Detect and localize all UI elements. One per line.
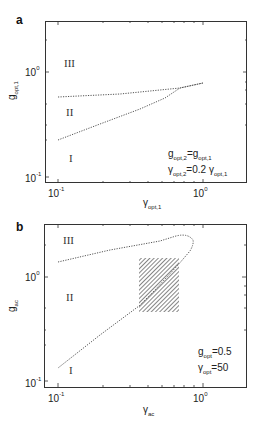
panel-a-ylabel: gopt,1 <box>6 81 19 100</box>
panel-a-annotation: gopt,2=gopt,1 γopt,2=0.2 γopt,1 <box>168 148 227 180</box>
panel-a-boundary-upper <box>58 83 203 97</box>
panel-a-region-I: I <box>69 152 73 164</box>
truncated-caption <box>14 418 254 426</box>
panel-a-xlabel: γopt,1 <box>143 197 161 210</box>
panel-a-region-III: III <box>64 57 75 69</box>
panel-b-label: b <box>16 220 23 234</box>
panel-b-xlabel: γac <box>143 404 154 417</box>
panel-b-xtick-right: 100 <box>193 391 207 404</box>
panel-b-xtick-left: 10-1 <box>48 391 64 404</box>
panel-a-region-II: II <box>66 106 73 118</box>
panel-a-boundary-lower <box>58 83 203 140</box>
panel-a-curves <box>58 83 203 140</box>
panel-b-region-I: I <box>69 364 73 376</box>
panel-b-ytick-top: 100 <box>25 270 39 283</box>
panel-a-ytick-bottom: 10-1 <box>25 171 41 184</box>
panel-b-ytick-bottom: 10-1 <box>25 376 41 389</box>
panel-b-region-III: III <box>63 234 74 246</box>
panel-a-xtick-left: 10-1 <box>48 186 64 199</box>
panel-b-ylabel: gac <box>6 300 19 312</box>
panel-b-region-II: II <box>66 291 73 303</box>
panel-b-annotation: gopt=0.5 γopt=50 <box>198 346 232 378</box>
panel-a-xtick-right: 100 <box>193 186 207 199</box>
panel-a-ytick-top: 100 <box>25 65 39 78</box>
